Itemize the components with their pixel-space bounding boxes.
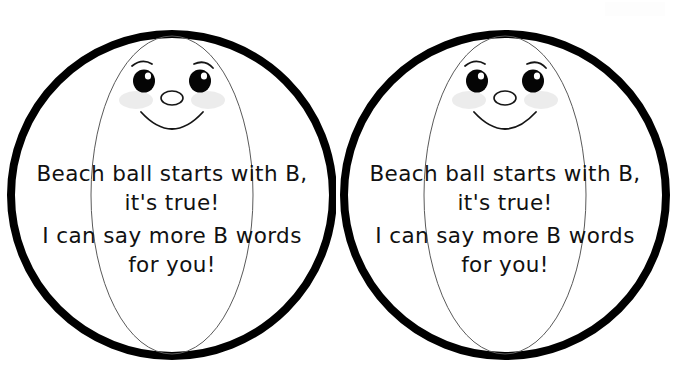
left-blush-icon: [119, 91, 153, 109]
rhyme-line-3: I can say more B words: [375, 223, 635, 248]
rhyme-line-2: it's true!: [457, 190, 552, 215]
beach-ball-left-graphic: Beach ball starts with B, it's true! I c…: [0, 0, 336, 382]
right-blush-icon: [191, 91, 225, 109]
rhyme-line-4: for you!: [461, 252, 549, 277]
rhyme-line-1: Beach ball starts with B,: [369, 161, 640, 186]
left-eye-highlight-icon: [478, 72, 484, 79]
rhyme-line-2: it's true!: [124, 190, 219, 215]
rhyme-line-1: Beach ball starts with B,: [36, 161, 307, 186]
beach-ball-right: Beach ball starts with B, it's true! I c…: [337, 0, 673, 382]
right-eye-highlight-icon: [534, 72, 540, 79]
left-eye-highlight-icon: [145, 72, 151, 79]
right-blush-icon: [524, 91, 558, 109]
corner-scan-artifact: [605, 2, 665, 16]
right-eye-highlight-icon: [201, 72, 207, 79]
beach-ball-right-graphic: Beach ball starts with B, it's true! I c…: [337, 0, 673, 382]
beach-ball-left: Beach ball starts with B, it's true! I c…: [0, 0, 336, 382]
right-eye-icon: [522, 70, 544, 93]
left-blush-icon: [452, 91, 486, 109]
printable-sheet: Beach ball starts with B, it's true! I c…: [0, 0, 673, 382]
rhyme-line-3: I can say more B words: [42, 223, 302, 248]
rhyme-line-4: for you!: [128, 252, 216, 277]
left-eye-icon: [133, 70, 155, 93]
left-eye-icon: [466, 70, 488, 93]
right-eye-icon: [189, 70, 211, 93]
